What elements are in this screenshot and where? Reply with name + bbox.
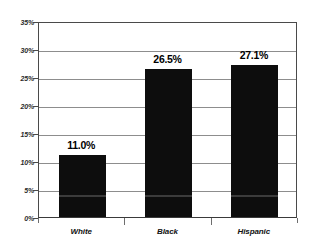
bar [145, 69, 192, 217]
bar-value-label: 26.5% [128, 53, 208, 65]
x-axis-separator-tick [124, 218, 125, 225]
y-axis-tick-label: 0% [0, 215, 34, 222]
bar-value-label: 11.0% [41, 139, 121, 151]
x-axis-category-label: Hispanic [209, 227, 299, 236]
y-axis-tick-label: 15% [0, 131, 34, 138]
bar-chart: 0%5%10%15%20%25%30%35% 11.0%26.5%27.1% W… [0, 0, 312, 249]
bar-shade-band [231, 195, 278, 197]
bar-shade-band [145, 195, 192, 197]
y-axis-tick-label: 25% [0, 75, 34, 82]
x-axis-category-label: White [36, 227, 126, 236]
y-axis-tick-label: 5% [0, 187, 34, 194]
bar [231, 65, 278, 217]
y-axis-tick-label: 35% [0, 19, 34, 26]
y-axis-tick-label: 20% [0, 103, 34, 110]
bar [59, 155, 106, 217]
bar-shade-band [59, 195, 106, 197]
y-axis-tick-label: 10% [0, 159, 34, 166]
x-axis-end-tick [38, 218, 39, 223]
x-axis-separator-tick [211, 218, 212, 225]
x-axis-category-label: Black [123, 227, 213, 236]
bar-value-label: 27.1% [214, 49, 294, 61]
x-axis-end-tick [297, 218, 298, 223]
y-axis-tick-label: 30% [0, 47, 34, 54]
